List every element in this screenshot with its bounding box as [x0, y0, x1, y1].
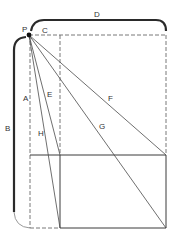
label-c: C [42, 26, 48, 35]
bracket-b-end [14, 212, 30, 228]
bracket-b [14, 37, 26, 212]
label-e: E [47, 90, 52, 99]
ray-g [29, 35, 166, 228]
label-g: G [99, 122, 105, 131]
label-b: B [5, 124, 10, 133]
ray-h [29, 35, 60, 228]
bracket-d [31, 20, 166, 31]
label-d: D [94, 10, 100, 19]
label-p: P [22, 25, 27, 34]
label-f: F [108, 94, 113, 103]
label-a: A [23, 94, 29, 103]
perspective-diagram: P C D A B E F G H [0, 0, 176, 241]
ray-e [29, 35, 60, 155]
label-h: H [38, 129, 44, 138]
